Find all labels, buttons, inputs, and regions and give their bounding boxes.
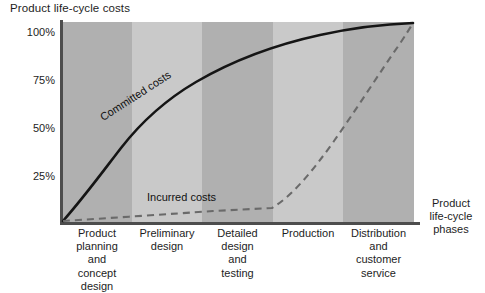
committed-costs-curve bbox=[63, 23, 413, 221]
incurred-costs-label: Incurred costs bbox=[147, 191, 216, 203]
x-axis-title: Product life-cycle phases bbox=[418, 197, 484, 237]
x-axis-category-labels: Product planning and concept design Prel… bbox=[62, 227, 414, 293]
x-category-distribution: Distribution and customer service bbox=[343, 227, 414, 293]
x-category-production: Production bbox=[273, 227, 343, 293]
x-category-detailed-design: Detailed design and testing bbox=[202, 227, 273, 293]
incurred-costs-curve bbox=[63, 23, 413, 221]
x-category-preliminary-design: Preliminary design bbox=[132, 227, 202, 293]
x-category-product-planning: Product planning and concept design bbox=[62, 227, 132, 293]
